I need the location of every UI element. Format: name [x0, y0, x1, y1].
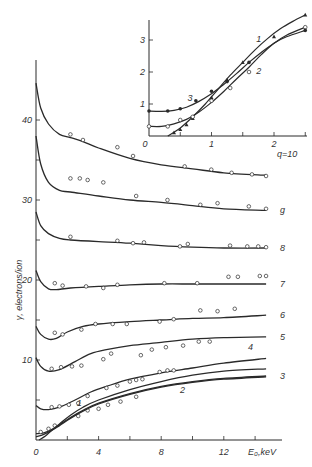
data-point: [183, 165, 187, 169]
series-q10: q=10: [36, 83, 297, 178]
data-point: [233, 307, 237, 311]
data-point: [69, 133, 73, 137]
data-point: [53, 331, 57, 335]
inset-point-filled: [247, 61, 251, 65]
data-point: [61, 284, 65, 288]
inset-curve: [149, 27, 305, 126]
series-1: 1: [39, 369, 266, 440]
data-point: [195, 281, 199, 285]
data-point: [164, 345, 168, 349]
series-9: g: [36, 136, 285, 215]
data-point: [106, 403, 110, 407]
data-point: [67, 403, 71, 407]
data-point: [50, 367, 54, 371]
data-point: [142, 241, 146, 245]
data-point: [197, 340, 201, 344]
data-point: [236, 275, 240, 279]
inset-point-open: [228, 86, 232, 90]
data-point: [78, 177, 82, 181]
data-point: [186, 242, 190, 246]
data-point: [227, 275, 231, 279]
data-point: [119, 400, 123, 404]
data-point: [84, 285, 88, 289]
x-tick-label: 4: [96, 447, 101, 457]
x-tick-label: 8: [159, 447, 164, 457]
curve: [36, 212, 266, 248]
inset-plot: 012123123: [139, 13, 307, 149]
curve-label: g: [280, 205, 285, 215]
curve: [36, 270, 266, 289]
data-point: [111, 322, 115, 326]
curve-label: 2: [179, 385, 185, 395]
inset-point-filled: [166, 109, 170, 113]
data-point: [61, 333, 65, 337]
data-point: [47, 427, 51, 431]
data-point: [116, 384, 120, 388]
data-point: [116, 239, 120, 243]
data-point: [216, 309, 220, 313]
inset-point-open: [191, 115, 195, 119]
data-point: [80, 328, 84, 332]
inset-curve-label: 2: [255, 66, 261, 76]
data-point: [125, 322, 129, 326]
data-point: [139, 353, 143, 357]
series-7: 7: [36, 270, 286, 289]
y-tick-label: 40: [22, 115, 32, 125]
data-point: [116, 283, 120, 287]
data-point: [216, 201, 220, 205]
inset-y-tick-label: 2: [139, 67, 145, 77]
inset-y-tick-label: 3: [140, 35, 145, 45]
series-4: 4: [36, 342, 266, 409]
data-point: [209, 168, 213, 172]
data-point: [181, 344, 185, 348]
data-point: [81, 138, 85, 142]
inset-series-2: 2: [147, 25, 307, 128]
data-point: [199, 309, 203, 313]
data-point: [69, 235, 73, 239]
curve: [36, 377, 266, 437]
inset-point-open: [178, 118, 182, 122]
data-point: [158, 370, 162, 374]
data-point: [256, 245, 260, 249]
inset-series-1: 1: [168, 13, 307, 136]
inset-point-filled: [178, 107, 182, 111]
data-point: [264, 207, 268, 211]
x-axis-label: E₀,keV: [248, 447, 277, 457]
inset-series-3: 3: [147, 29, 307, 113]
data-point: [178, 245, 182, 249]
data-point: [128, 380, 132, 384]
data-point: [264, 174, 268, 178]
data-point: [109, 352, 113, 356]
curve: [36, 315, 266, 339]
data-point: [97, 407, 101, 411]
x-tick-label: 0: [33, 447, 38, 457]
data-point: [247, 205, 251, 209]
data-point: [245, 245, 249, 249]
inset-point-filled: [303, 29, 307, 33]
curve-label: 3: [280, 371, 285, 381]
inset-point-open: [166, 125, 170, 129]
data-point: [86, 394, 90, 398]
data-point: [53, 281, 57, 285]
data-point: [134, 395, 138, 399]
data-point: [131, 241, 135, 245]
data-point: [58, 405, 62, 409]
curve-label: 4: [248, 342, 253, 352]
data-point: [166, 369, 170, 373]
data-point: [158, 320, 162, 324]
data-point: [101, 357, 105, 361]
curve: [36, 83, 266, 175]
curve-label: 7: [280, 279, 286, 289]
data-point: [258, 274, 262, 278]
data-point: [264, 245, 268, 249]
data-point: [59, 365, 63, 369]
data-point: [101, 181, 105, 185]
emission-yield-chart: 0481210203040E₀,keVγ, electrons/ionq=10g…: [0, 0, 312, 467]
x-tick-label: 12: [219, 447, 229, 457]
inset-curve-label: 1: [256, 34, 261, 44]
data-point: [163, 281, 167, 285]
y-tick-label: 10: [22, 355, 32, 365]
series-2: 2: [36, 377, 266, 437]
inset-curve: [149, 30, 305, 111]
inset-x-tick-label: 0: [142, 139, 147, 149]
